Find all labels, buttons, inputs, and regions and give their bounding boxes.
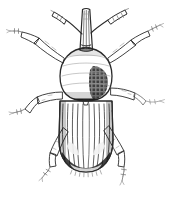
weevil-drawing [0,0,170,197]
median-pale-stripe [83,106,89,170]
weevil-figure [0,0,170,197]
